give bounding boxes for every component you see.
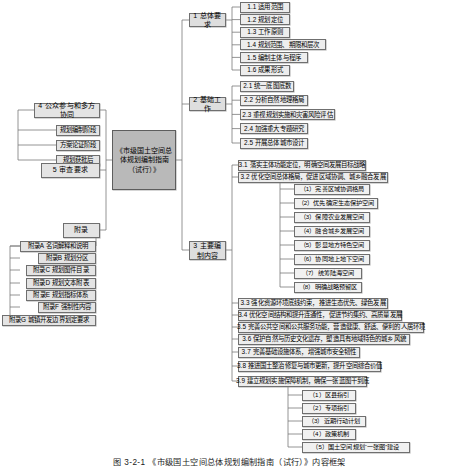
branch-node-review-requirements[interactable]: 5 审查要求: [41, 163, 100, 178]
node-1-5[interactable]: 1.5 编制主体与程序: [240, 52, 308, 63]
node-3-9-1[interactable]: （1）区县指引: [302, 390, 356, 401]
node-3-9-3[interactable]: （3）近期行动计划: [302, 416, 366, 427]
node-3-2[interactable]: 3.2 优化空间总体格局，促进区域协调、城乡融合发展: [238, 172, 388, 183]
node-2-4[interactable]: 2.4 加强重大专题研究: [240, 123, 308, 134]
node-2-3[interactable]: 2.3 重视规划实施和灾害风险评估: [240, 109, 335, 120]
figure-caption: 图 3-2-1 《市级国土空间总体规划编制指南（试行）》内容框架: [0, 455, 459, 467]
node-appendix-g[interactable]: 附录G 城镇开发边界划定要求: [2, 315, 96, 326]
branch-node-appendix[interactable]: 附录: [63, 223, 100, 238]
center-node[interactable]: 《市级国土空间总体规划编制指南（试行）》: [112, 130, 176, 190]
node-1-4[interactable]: 1.4 规划范围、期限和层次: [240, 39, 326, 50]
node-3-6[interactable]: 3.6 保护自然与历史文化遗存，塑造具有地域特色的城乡风貌: [238, 334, 410, 345]
node-3-2-6[interactable]: （6）协同地上地下空间: [294, 254, 370, 265]
node-1-1[interactable]: 1.1 适用范围: [240, 2, 290, 13]
node-2-2[interactable]: 2.2 分析自然地理格局: [240, 95, 308, 106]
node-3-2-3[interactable]: （3）保障农业发展空间: [294, 212, 370, 223]
node-3-2-8[interactable]: （8）明确战略预留区: [294, 282, 362, 293]
node-3-3[interactable]: 3.3 强化资源环境底线约束，推进生态优先、绿色发展: [238, 298, 388, 309]
node-3-2-4[interactable]: （4）融合城乡发展空间: [294, 226, 370, 237]
node-1-3[interactable]: 1.3 工作原则: [240, 27, 290, 38]
node-3-9-5[interactable]: （5）国土空间规划“一张图”建设: [302, 442, 410, 453]
node-3-9-2[interactable]: （2）专项指引: [302, 403, 356, 414]
node-appendix-c[interactable]: 附录C 规划图件目录: [26, 265, 96, 276]
node-3-4[interactable]: 3.4 优化空间结构和提升连通性，促进节约集约、高质量发展: [238, 310, 402, 321]
node-3-2-1[interactable]: （1）完善区域协调格局: [294, 184, 370, 195]
node-3-5[interactable]: 3.5 完善公共空间和公共服务功能，营造健康、舒适、便利的人居环境: [238, 322, 424, 333]
node-3-2-5[interactable]: （5）彰显地方特色空间: [294, 240, 370, 251]
node-appendix-f[interactable]: 附录F 强制性内容: [38, 302, 96, 313]
node-3-8[interactable]: 3.8 推进国土整治修复与城市更新，提升空间综合价值: [238, 361, 381, 372]
branch-node-overall-requirements[interactable]: 1 总体要求: [189, 13, 226, 27]
node-1-2[interactable]: 1.2 规划定位: [240, 14, 290, 25]
node-3-1[interactable]: 3.1 落实主体功能定位，明确空间发展目标战略: [238, 160, 366, 171]
node-3-9-4[interactable]: （4）政策机制: [302, 429, 356, 440]
node-4-1[interactable]: 规划编制阶段: [56, 125, 100, 136]
node-4-2[interactable]: 方案论证阶段: [56, 140, 100, 151]
node-3-2-2[interactable]: （2）优先确定生态保护空间: [294, 198, 378, 209]
branch-node-public-participation[interactable]: 4 公众参与和多方协同: [34, 103, 100, 118]
node-appendix-d[interactable]: 附录D 规划文本附表: [26, 278, 96, 289]
node-2-5[interactable]: 2.5 开展总体城市设计: [240, 138, 308, 149]
branch-node-main-content[interactable]: 3 主要编制内容: [189, 241, 226, 260]
mindmap-canvas: 《市级国土空间总体规划编制指南（试行）》 1 总体要求 1.1 适用范围 1.2…: [0, 0, 459, 473]
node-1-6[interactable]: 1.6 成果形式: [240, 65, 290, 76]
branch-node-basic-work[interactable]: 2 基础工作: [189, 97, 226, 111]
node-appendix-b[interactable]: 附录B 规划分区: [38, 253, 96, 264]
node-appendix-e[interactable]: 附录E 规划指标体系: [26, 290, 96, 301]
node-3-7[interactable]: 3.7 完善基础设施体系，增强城市安全韧性: [238, 347, 360, 358]
node-appendix-a[interactable]: 附录A 名词解释和说明: [20, 241, 96, 252]
node-3-9[interactable]: 3.9 建立规划实施保障机制，确保一张蓝图干到底: [238, 376, 367, 387]
node-3-2-7[interactable]: （7）统筹陆海空间: [294, 268, 362, 279]
node-2-1[interactable]: 2.1 统一底图底数: [240, 81, 294, 92]
